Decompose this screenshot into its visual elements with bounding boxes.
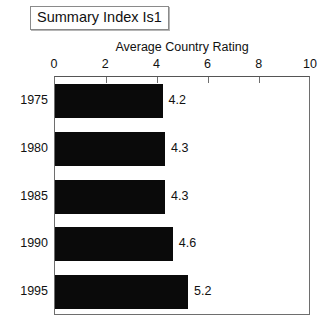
x-axis-tick-label-2: 2 — [102, 57, 109, 71]
bar-value-label-1980: 4.3 — [171, 141, 188, 155]
bar-value-label-1990: 4.6 — [179, 236, 196, 250]
x-axis-tick-2 — [106, 77, 107, 83]
bar-1990 — [55, 227, 173, 261]
x-axis-tick-label-0: 0 — [51, 57, 58, 71]
bar-1985 — [55, 180, 165, 214]
x-axis-tick-8 — [259, 77, 260, 83]
x-axis-tick-6 — [208, 77, 209, 83]
category-label-1995: 1995 — [0, 284, 48, 298]
category-label-1990: 1990 — [0, 236, 48, 250]
bar-value-label-1975: 4.2 — [169, 93, 186, 107]
category-label-1980: 1980 — [0, 141, 48, 155]
category-label-1975: 1975 — [0, 93, 48, 107]
category-label-1985: 1985 — [0, 189, 48, 203]
bar-1975 — [55, 84, 163, 118]
summary-index-title-text: Summary Index Is1 — [37, 9, 162, 25]
x-axis-tick-4 — [157, 77, 158, 83]
x-axis-tick-label-8: 8 — [255, 57, 262, 71]
bar-1995 — [55, 275, 188, 309]
x-axis-title: Average Country Rating — [54, 40, 310, 55]
x-axis-tick-label-4: 4 — [153, 57, 160, 71]
bar-1980 — [55, 132, 165, 166]
bar-value-label-1985: 4.3 — [171, 189, 188, 203]
x-axis-tick-label-6: 6 — [204, 57, 211, 71]
x-axis-tick-label-10: 10 — [303, 57, 317, 71]
summary-index-title-box: Summary Index Is1 — [30, 6, 169, 30]
bar-value-label-1995: 5.2 — [194, 284, 211, 298]
